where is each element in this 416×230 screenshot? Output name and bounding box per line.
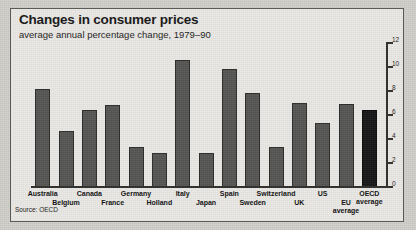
x-axis-label-switzerland: Switzerland [257,190,296,198]
y-axis-tick-label: 8 [392,84,396,91]
y-axis-tick-label: 2 [392,156,396,163]
chart-source: Source: OECD [15,206,58,213]
x-axis-label-uk: UK [294,199,304,207]
bar-canada [82,110,97,187]
bar-uk [292,103,307,187]
bar-germany [129,147,144,187]
x-axis-label-holland: Holland [146,199,172,207]
x-axis-label-spain: Spain [220,190,239,198]
x-axis-label-france: France [101,199,124,207]
bar-spain [222,69,237,187]
bar-sweden [245,93,260,187]
y-axis-tick-label: 6 [392,108,396,115]
x-axis-label-belgium: Belgium [52,199,80,207]
x-axis-label-japan: Japan [196,199,216,207]
x-axis-label-italy: Italy [176,190,190,198]
x-axis-label-germany: Germany [121,190,151,198]
bar-japan [199,153,214,187]
bar-holland [152,153,167,187]
x-axis-label-us: US [318,190,328,198]
y-axis-tick-label: 4 [392,132,396,139]
y-axis-tick-label: 0 [392,180,396,187]
chart-title: Changes in consumer prices [19,12,198,27]
bar-france [105,105,120,187]
x-axis-label-sweden: Sweden [239,199,265,207]
y-axis-tick-label: 10 [392,60,399,67]
bar-australia [35,89,50,187]
chart-subtitle: average annual percentage change, 1979–9… [19,29,211,40]
bar-switzerland [269,147,284,187]
x-axis-label-australia: Australia [28,190,58,198]
x-axis-baseline [31,186,388,188]
chart-plot-area [31,43,381,187]
x-axis-label-canada: Canada [77,190,102,198]
bar-oecd-average [362,110,377,187]
x-axis-label-oecd-average: OECDaverage [356,190,382,206]
bar-eu-average [339,104,354,187]
bar-belgium [59,131,74,187]
chart-figure: Changes in consumer prices average annua… [10,8,404,222]
bar-us [315,123,330,187]
bar-italy [175,60,190,187]
y-axis-tick-label: 12 [392,36,399,43]
